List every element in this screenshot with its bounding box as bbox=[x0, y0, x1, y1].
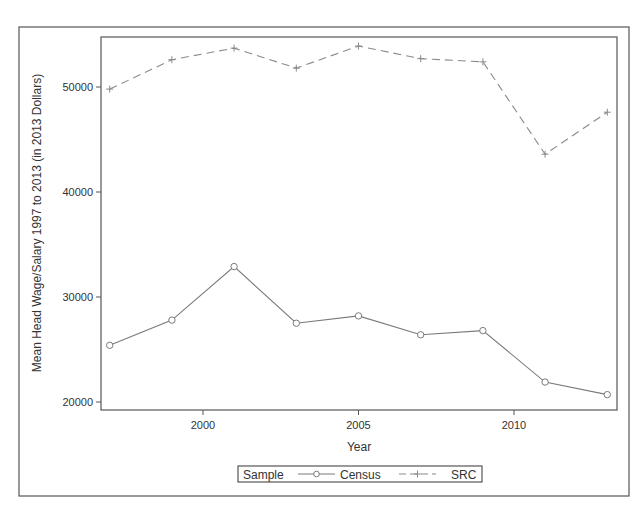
x-tick-label: 2010 bbox=[502, 419, 526, 431]
circle-marker-icon bbox=[355, 313, 361, 319]
x-axis: 2000 2005 2010 bbox=[191, 410, 526, 431]
plus-marker-icon bbox=[479, 58, 486, 65]
x-tick-label: 2000 bbox=[191, 419, 215, 431]
y-tick-label: 20000 bbox=[62, 396, 93, 408]
legend-label-census: Census bbox=[340, 468, 381, 482]
y-tick-label: 30000 bbox=[62, 291, 93, 303]
y-tick-label: 50000 bbox=[62, 81, 93, 93]
circle-marker-icon bbox=[231, 263, 237, 269]
y-tick-label: 40000 bbox=[62, 186, 93, 198]
y-axis: 20000 30000 40000 50000 bbox=[62, 81, 101, 408]
circle-marker-icon bbox=[314, 471, 320, 477]
legend-title: Sample bbox=[243, 468, 284, 482]
census-line bbox=[110, 267, 608, 395]
plus-marker-icon bbox=[106, 86, 113, 93]
plus-marker-icon bbox=[417, 55, 424, 62]
circle-marker-icon bbox=[107, 342, 113, 348]
circle-marker-icon bbox=[542, 379, 548, 385]
plus-marker-icon bbox=[231, 45, 238, 52]
circle-marker-icon bbox=[293, 320, 299, 326]
plot-area bbox=[101, 37, 617, 410]
x-axis-title: Year bbox=[347, 440, 371, 454]
x-tick-label: 2005 bbox=[346, 419, 370, 431]
circle-marker-icon bbox=[418, 332, 424, 338]
src-line bbox=[110, 46, 608, 154]
circle-marker-icon bbox=[480, 327, 486, 333]
circle-marker-icon bbox=[169, 317, 175, 323]
legend: Sample Census SRC bbox=[238, 466, 482, 482]
plus-marker-icon bbox=[355, 43, 362, 50]
outer-frame bbox=[19, 27, 629, 496]
circle-marker-icon bbox=[604, 391, 610, 397]
plus-marker-icon bbox=[604, 109, 611, 116]
plus-marker-icon bbox=[293, 65, 300, 72]
legend-label-src: SRC bbox=[451, 468, 477, 482]
plus-marker-icon bbox=[168, 56, 175, 63]
series-layer bbox=[106, 43, 611, 398]
plus-marker-icon bbox=[542, 151, 549, 158]
y-axis-title: Mean Head Wage/Salary 1997 to 2013 (in 2… bbox=[30, 74, 44, 372]
line-chart: 20000 30000 40000 50000 2000 2005 2010 Y… bbox=[0, 0, 641, 515]
